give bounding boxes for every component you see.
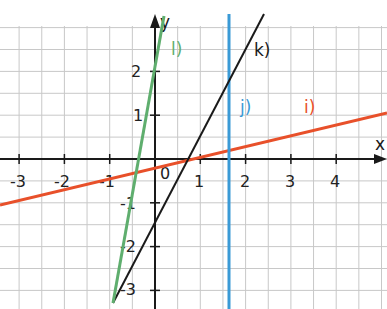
y-axis-arrow-icon bbox=[150, 14, 160, 28]
line-j-label: j) bbox=[239, 97, 251, 117]
line-k-label: k) bbox=[254, 40, 270, 60]
graph-canvas: -3 -2 -1 1 2 3 4 0 2 1 -1 -2 -3 y x i) j… bbox=[0, 0, 387, 309]
y-tick-label: 1 bbox=[133, 106, 143, 125]
x-axis-arrow-icon bbox=[374, 154, 387, 164]
x-tick-label: 2 bbox=[240, 172, 250, 191]
coordinate-diagram: -3 -2 -1 1 2 3 4 0 2 1 -1 -2 -3 y x i) j… bbox=[0, 0, 387, 309]
x-axis-label: x bbox=[375, 134, 385, 154]
x-tick-label: 1 bbox=[194, 172, 204, 191]
x-tick-label: -3 bbox=[10, 172, 26, 191]
grid bbox=[0, 26, 387, 309]
y-tick-label: 2 bbox=[131, 62, 141, 81]
axes bbox=[0, 24, 378, 309]
line-l-label: l) bbox=[171, 39, 182, 59]
y-tick-label: -3 bbox=[120, 280, 136, 299]
line-i-label: i) bbox=[304, 97, 315, 117]
x-tick-label: 3 bbox=[285, 172, 295, 191]
x-tick-label: 4 bbox=[330, 172, 340, 191]
